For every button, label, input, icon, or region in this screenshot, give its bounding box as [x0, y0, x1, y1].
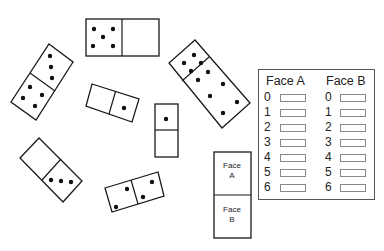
face-a-row-label: 3: [264, 135, 271, 149]
face-a-row-label: 5: [264, 165, 271, 179]
face-b-cell-0[interactable]: [340, 94, 366, 102]
face-a-row-label: 4: [264, 150, 271, 164]
face-b-cell-6[interactable]: [340, 184, 366, 192]
domino-lower-left-tilted: [20, 138, 82, 202]
domino-vertical-small: [155, 104, 178, 157]
face-a-row-label: 0: [264, 90, 271, 104]
legend-face-b-label: Face B: [214, 205, 250, 225]
face-b-row-label: 1: [325, 105, 332, 119]
domino-right-tilted: [169, 40, 250, 128]
face-b-cell-2[interactable]: [340, 124, 366, 132]
face-a-cell-3[interactable]: [280, 139, 306, 147]
face-b-row-label: 4: [325, 150, 332, 164]
face-b-cell-1[interactable]: [340, 109, 366, 117]
face-a-cell-6[interactable]: [280, 184, 306, 192]
record-table: Face A Face B 0 0 1 1 2 2 3 3 4 4 5 5 6 …: [258, 69, 375, 200]
face-a-cell-0[interactable]: [280, 94, 306, 102]
domino-bottom-tilted: [105, 172, 164, 212]
face-a-cell-1[interactable]: [280, 109, 306, 117]
face-a-row-label: 2: [264, 120, 271, 134]
domino-top-horizontal: [86, 19, 159, 56]
legend-face-b-line2: B: [214, 215, 250, 225]
face-a-header: Face A: [266, 74, 305, 88]
face-a-row-label: 1: [264, 105, 271, 119]
face-a-cell-5[interactable]: [280, 169, 306, 177]
face-a-cell-2[interactable]: [280, 124, 306, 132]
legend-face-b-line1: Face: [214, 205, 250, 215]
face-b-cell-3[interactable]: [340, 139, 366, 147]
face-b-row-label: 5: [325, 165, 332, 179]
face-b-header: Face B: [326, 74, 366, 88]
face-b-cell-5[interactable]: [340, 169, 366, 177]
face-a-cell-4[interactable]: [280, 154, 306, 162]
legend-face-a-line1: Face: [214, 161, 250, 171]
face-b-cell-4[interactable]: [340, 154, 366, 162]
domino-left-tilted: [11, 44, 73, 120]
legend-face-a-line2: A: [214, 171, 250, 181]
legend-face-a-label: Face A: [214, 161, 250, 181]
face-b-row-label: 3: [325, 135, 332, 149]
domino-middle-tilted: [86, 84, 139, 122]
face-b-row-label: 6: [325, 180, 332, 194]
face-b-row-label: 2: [325, 120, 332, 134]
face-b-row-label: 0: [325, 90, 332, 104]
face-a-row-label: 6: [264, 180, 271, 194]
